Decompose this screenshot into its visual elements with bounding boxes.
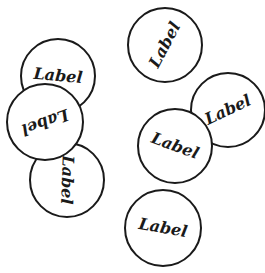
bubble-label: Label: [19, 106, 71, 138]
bubble-label: Label: [149, 130, 201, 162]
label-bubble-left-inverted[interactable]: Label: [6, 83, 84, 161]
bubble-label: Label: [202, 92, 253, 127]
bubble-label: Label: [58, 155, 76, 205]
bubble-label: Label: [137, 216, 188, 240]
label-bubble-top-center[interactable]: Label: [127, 7, 203, 83]
bubble-label: Label: [146, 20, 183, 71]
label-bubble-bottom[interactable]: Label: [124, 189, 202, 267]
label-bubble-middle-right[interactable]: Label: [137, 108, 213, 184]
sticker-canvas: Label Label Label Label Label Label Labe…: [0, 0, 265, 273]
